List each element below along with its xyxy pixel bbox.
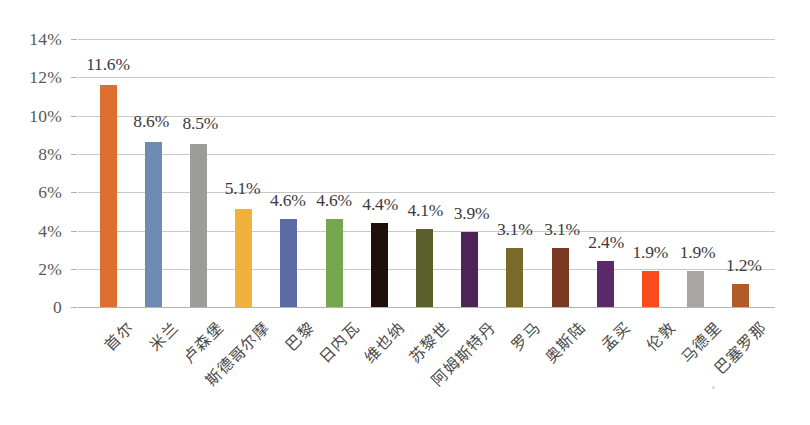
paper-speck bbox=[712, 386, 715, 389]
category-label-维也纳: 维也纳 bbox=[358, 316, 409, 367]
x-axis-category-labels: 首尔米兰卢森堡斯德哥尔摩巴黎日内瓦维也纳苏黎世阿姆斯特丹罗马奥斯陆孟买伦敦马德里… bbox=[78, 310, 775, 425]
category-label-日内瓦: 日内瓦 bbox=[313, 316, 364, 367]
data-label-罗马: 3.1% bbox=[497, 219, 533, 240]
y-tick-label-8: 8% bbox=[38, 144, 62, 165]
data-label-阿姆斯特丹: 3.9% bbox=[454, 203, 490, 224]
y-tick-label-2: 2% bbox=[38, 259, 62, 280]
y-tick-label-12: 12% bbox=[29, 67, 62, 88]
data-label-巴黎: 4.6% bbox=[270, 190, 306, 211]
y-tick-label-14: 14% bbox=[29, 29, 62, 50]
data-label-孟买: 2.4% bbox=[588, 232, 624, 253]
category-label-巴黎: 巴黎 bbox=[279, 316, 318, 355]
data-labels-layer: 11.6%8.6%8.5%5.1%4.6%4.6%4.4%4.1%3.9%3.1… bbox=[78, 39, 775, 307]
data-label-苏黎世: 4.1% bbox=[408, 200, 444, 221]
y-axis-labels: 14% 12% 10% 8% 6% 4% 2% 0 bbox=[0, 0, 70, 425]
category-label-罗马: 罗马 bbox=[505, 316, 544, 355]
gridline-0-axis bbox=[78, 307, 775, 308]
data-label-日内瓦: 4.6% bbox=[316, 190, 352, 211]
data-label-马德里: 1.9% bbox=[680, 242, 716, 263]
category-label-奥斯陆: 奥斯陆 bbox=[539, 316, 590, 367]
y-tick-label-6: 6% bbox=[38, 182, 62, 203]
data-label-米兰: 8.6% bbox=[133, 111, 169, 132]
data-label-卢森堡: 8.5% bbox=[183, 113, 219, 134]
y-tick-label-0: 0 bbox=[53, 297, 62, 318]
y-tick-label-4: 4% bbox=[38, 221, 62, 242]
category-label-伦敦: 伦敦 bbox=[641, 316, 680, 355]
data-label-奥斯陆: 3.1% bbox=[544, 219, 580, 240]
data-label-首尔: 11.6% bbox=[86, 54, 130, 75]
y-tick-label-10: 10% bbox=[29, 106, 62, 127]
category-label-孟买: 孟买 bbox=[596, 316, 635, 355]
bar-chart: 14% 12% 10% 8% 6% 4% 2% 0 11.6%8.6%8.5%5… bbox=[0, 0, 810, 425]
data-label-巴塞罗那: 1.2% bbox=[726, 255, 762, 276]
category-label-米兰: 米兰 bbox=[144, 316, 183, 355]
category-label-首尔: 首尔 bbox=[99, 316, 138, 355]
data-label-伦敦: 1.9% bbox=[633, 242, 669, 263]
data-label-维也纳: 4.4% bbox=[362, 194, 398, 215]
data-label-斯德哥尔摩: 5.1% bbox=[225, 178, 261, 199]
